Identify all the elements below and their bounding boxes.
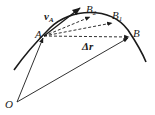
label-vA-sub: A	[48, 16, 54, 24]
label-B1: B1	[112, 9, 122, 23]
label-A: A	[34, 28, 42, 40]
displacement-AB-delta-r	[44, 36, 129, 37]
label-B2: B2	[86, 3, 97, 17]
label-O: O	[5, 98, 13, 110]
label-B: B	[133, 27, 140, 39]
label-B1-sub: 1	[119, 15, 123, 23]
label-vA: vA	[44, 10, 54, 24]
label-B2-sub: 2	[93, 9, 97, 17]
position-vector-OA	[17, 38, 43, 102]
position-vector-OB	[17, 38, 128, 102]
trajectory-diagram: O A B B1 B2 vA Δr	[0, 0, 155, 115]
label-delta-r: Δr	[81, 40, 94, 52]
